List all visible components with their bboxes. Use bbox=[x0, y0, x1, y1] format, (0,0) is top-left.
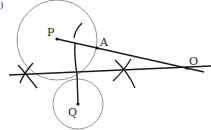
corner-mark: ) bbox=[0, 0, 4, 10]
arc-mark-top bbox=[74, 23, 82, 38]
line-horizontal bbox=[9, 66, 211, 75]
label-O: O bbox=[189, 55, 198, 68]
point-P bbox=[55, 37, 58, 40]
label-P: P bbox=[47, 26, 55, 39]
arc-mark-right-2 bbox=[115, 60, 135, 88]
point-A bbox=[95, 46, 98, 49]
label-A: A bbox=[99, 36, 109, 49]
line-QM bbox=[75, 43, 78, 104]
arc-mark-left-1 bbox=[18, 65, 37, 88]
construction-diagram: ) PAOQ bbox=[0, 0, 211, 130]
label-Q: Q bbox=[68, 106, 77, 119]
